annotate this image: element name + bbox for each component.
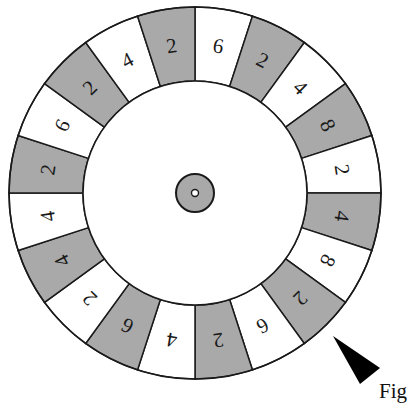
spinner-wheel-diagram: 62482482624624426242 [0, 0, 409, 404]
figure-caption: Fig [379, 381, 407, 402]
hub-hole [192, 190, 199, 197]
pointer-arrow-icon [333, 336, 380, 384]
